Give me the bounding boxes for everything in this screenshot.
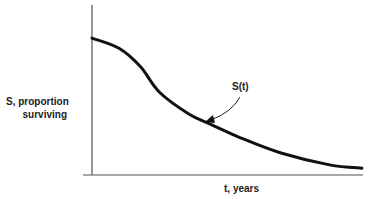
arrow-head <box>205 115 215 123</box>
y-axis-label-line2: surviving <box>23 109 67 120</box>
series-line-s-t <box>92 38 362 168</box>
y-axis-label-line1: S, proportion <box>6 96 69 107</box>
x-axis-label: t, years <box>224 183 259 194</box>
annotation-arrow <box>205 97 240 123</box>
survival-chart: S(t) S, proportion surviving t, years <box>0 0 370 199</box>
annotation-label: S(t) <box>232 81 249 92</box>
arrow-shaft <box>211 97 240 120</box>
